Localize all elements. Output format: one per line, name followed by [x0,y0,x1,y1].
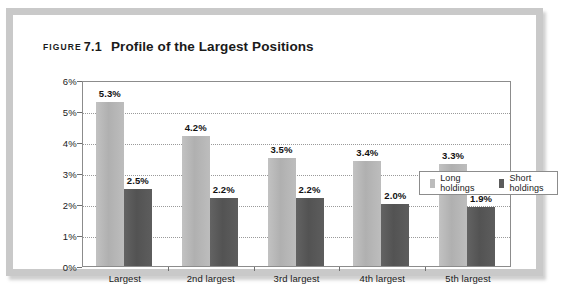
legend-item-short: Short holdings [499,173,546,193]
plot-area: 5.3%2.5%4.2%2.2%3.5%2.2%3.4%2.0%3.3%1.9%… [82,81,511,267]
bar-short [210,198,238,266]
bar-value-label: 2.0% [375,190,415,201]
y-axis-labels: 0%1%2%3%4%5%6% [45,81,77,267]
bar-value-label: 3.5% [262,144,302,155]
figure-label-word: FIGURE [43,42,82,52]
x-axis-category-label: 3rd largest [254,273,340,284]
bar-short [296,198,324,266]
bar-value-label: 4.2% [176,122,216,133]
bar-long [353,161,381,266]
bar-value-label: 2.2% [290,184,330,195]
bar-short [124,189,152,267]
x-axis-tick-marks [82,267,511,272]
legend-swatch-long-icon [430,179,435,188]
figure-title-text: Profile of the Largest Positions [111,39,314,54]
y-axis-tick-label: 6% [47,76,77,87]
x-axis-tick-mark [168,267,169,271]
x-axis-category-label: 4th largest [339,273,425,284]
y-axis-tick-label: 0% [47,262,77,273]
figure-frame: FIGURE7.1Profile of the Largest Position… [6,8,543,276]
y-axis-tick-label: 3% [47,169,77,180]
x-axis-tick-mark [254,267,255,271]
y-axis-tick-label: 1% [47,231,77,242]
gridline [83,113,510,114]
bar-long [182,136,210,266]
figure-title: FIGURE7.1Profile of the Largest Position… [43,37,314,55]
bar-value-label: 3.3% [433,150,473,161]
y-axis-tick-label: 2% [47,200,77,211]
figure-number: 7.1 [84,40,102,54]
bar-short [381,204,409,266]
bar-long [268,158,296,267]
bar-value-label: 2.2% [204,184,244,195]
y-axis-tick-label: 5% [47,107,77,118]
bar-short [467,207,495,266]
x-axis-tick-mark [425,267,426,271]
bar-value-label: 3.4% [347,147,387,158]
x-axis-category-label: 2nd largest [168,273,254,284]
legend-label-short: Short holdings [509,173,546,193]
legend-label-long: Long holdings [440,173,477,193]
x-axis-category-label: Largest [82,273,168,284]
bar-value-label: 5.3% [90,88,130,99]
chart-legend: Long holdings Short holdings [419,171,558,195]
y-axis-tick-label: 4% [47,138,77,149]
x-axis-tick-mark [339,267,340,271]
legend-swatch-short-icon [499,179,504,188]
legend-item-long: Long holdings [430,173,477,193]
bar-value-label: 2.5% [118,175,158,186]
x-axis-category-label: 5th largest [425,273,511,284]
